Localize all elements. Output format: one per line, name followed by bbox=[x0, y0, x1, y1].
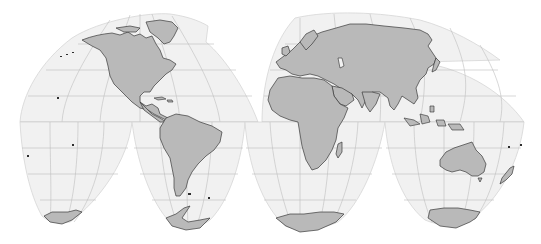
pacific-island bbox=[72, 144, 74, 146]
pacific-island bbox=[508, 146, 510, 148]
antarctica-oceania bbox=[428, 208, 480, 228]
pacific-island bbox=[27, 155, 29, 157]
aleutian-islands bbox=[72, 52, 74, 53]
south-pacific-lobe bbox=[20, 122, 132, 223]
aleutian-islands bbox=[60, 56, 62, 57]
south-georgia bbox=[208, 197, 210, 199]
aleutian-islands bbox=[66, 54, 68, 55]
antarctica-africa bbox=[276, 212, 344, 232]
goode-homolosine-map bbox=[0, 0, 541, 244]
hawaii bbox=[57, 97, 59, 99]
falkland-islands bbox=[188, 193, 191, 195]
world-map bbox=[0, 0, 541, 244]
pacific-island bbox=[520, 144, 522, 146]
